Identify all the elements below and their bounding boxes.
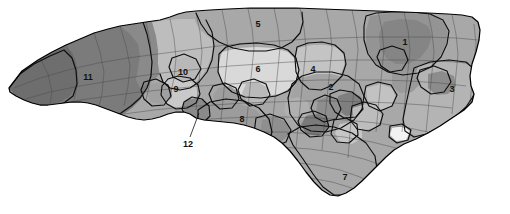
district-label-2: 2 [328, 82, 333, 92]
district-label-10: 10 [178, 67, 188, 77]
district-label-7: 7 [342, 172, 347, 182]
north-carolina-district-map: 1 2 3 4 5 6 7 8 9 10 11 12 [0, 0, 510, 214]
district-label-11: 11 [83, 72, 93, 82]
district-label-1: 1 [402, 37, 407, 47]
district-label-4: 4 [310, 64, 315, 74]
map-canvas: 1 2 3 4 5 6 7 8 9 10 11 12 [0, 0, 510, 214]
district-label-12: 12 [183, 139, 193, 149]
district-label-6: 6 [255, 64, 260, 74]
district-label-5: 5 [255, 19, 260, 29]
district-fill-layer [0, 0, 510, 214]
district-label-9: 9 [173, 84, 178, 94]
district-label-3: 3 [449, 84, 454, 94]
district-label-8: 8 [239, 114, 244, 124]
